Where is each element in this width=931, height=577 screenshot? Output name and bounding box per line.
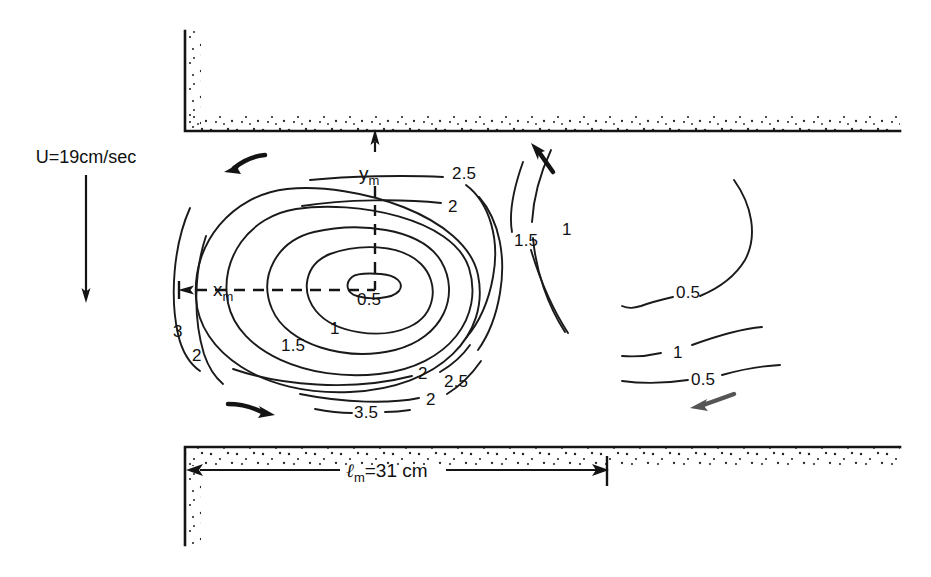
contour-label-0p5-right-upper: 0.5 bbox=[676, 283, 700, 302]
contour-label-1p5-shear: 1.5 bbox=[514, 231, 538, 250]
contour-label-3-left: 3 bbox=[173, 322, 183, 341]
axis-ym-letter: y bbox=[359, 163, 369, 184]
bottom-wall-left-stipple bbox=[186, 465, 201, 545]
scale-subscript: m bbox=[354, 470, 365, 485]
scale-symbol: ℓ bbox=[346, 460, 354, 481]
contour-label-3p5-bottom: 3.5 bbox=[354, 403, 378, 422]
contour-label-1-inner: 1 bbox=[330, 319, 340, 338]
contour-figure: U=19cm/sec ym xm bbox=[0, 0, 931, 577]
contour-label-2p5-bottom: 2.5 bbox=[444, 372, 468, 391]
contour-label-2-bottom: 2 bbox=[418, 364, 428, 383]
contour-label-2-bottom2: 2 bbox=[426, 390, 436, 409]
contour-label-0p5-core: 0.5 bbox=[357, 290, 381, 309]
scale-value: =31 cm bbox=[365, 460, 428, 481]
velocity-label: U=19cm/sec bbox=[36, 147, 137, 167]
figure-background bbox=[0, 0, 931, 577]
contour-label-1-right-lower: 1 bbox=[673, 343, 683, 362]
contour-label-1p5-mid: 1.5 bbox=[281, 336, 305, 355]
contour-label-2p5-top: 2.5 bbox=[452, 164, 476, 183]
axis-ym-subscript: m bbox=[369, 173, 380, 188]
contour-label-1-shear: 1 bbox=[562, 220, 572, 239]
bottom-wall-stipple bbox=[186, 448, 900, 465]
contour-label-2-left: 2 bbox=[192, 346, 202, 365]
axis-xm-letter: x bbox=[213, 279, 223, 300]
figure-canvas: U=19cm/sec ym xm bbox=[0, 0, 931, 577]
contour-label-0p5-right-lower: 0.5 bbox=[691, 370, 715, 389]
top-wall-left-stipple bbox=[186, 31, 201, 131]
contour-label-2-top: 2 bbox=[448, 197, 458, 216]
top-wall-stipple bbox=[186, 114, 900, 131]
